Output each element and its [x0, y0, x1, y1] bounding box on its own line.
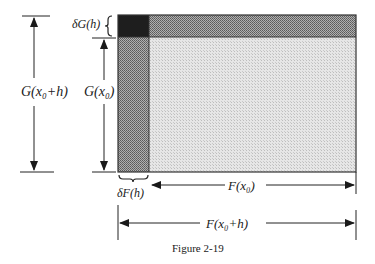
region-deltaf-deltag: [118, 15, 149, 37]
product-rule-diagram: [0, 0, 375, 264]
label-g-x0-plus-h: G(x₀+h): [21, 85, 68, 99]
region-f-g: [149, 37, 356, 172]
region-f-deltag: [149, 15, 356, 37]
label-delta-f: δF(h): [117, 187, 144, 199]
figure-caption: Figure 2-19: [172, 242, 224, 254]
label-delta-g: δG(h): [72, 18, 100, 30]
label-g-x0: G(x₀): [84, 85, 115, 99]
label-f-x0-plus-h: F(x₀+h): [206, 217, 248, 230]
label-f-x0: F(x₀): [228, 179, 255, 192]
region-deltaf-g: [118, 37, 149, 172]
delta-f-brace: [119, 175, 148, 182]
delta-g-brace: [105, 16, 112, 36]
